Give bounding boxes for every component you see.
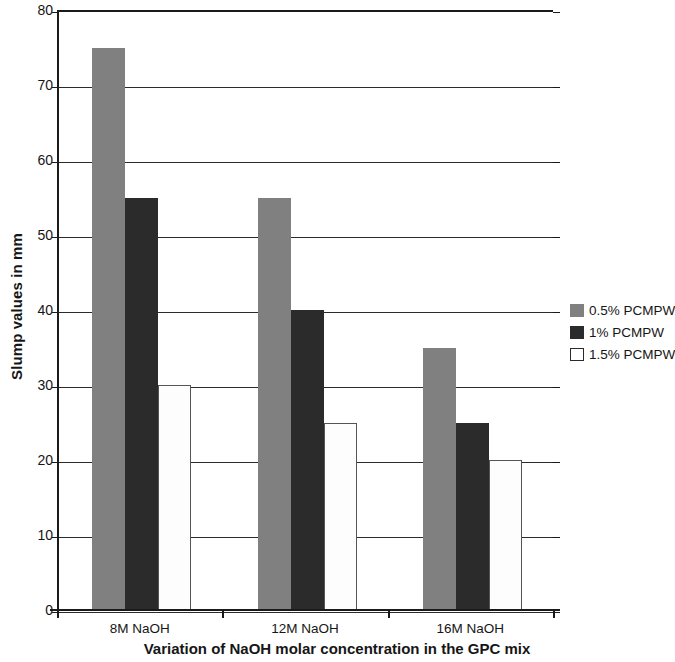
y-axis-tick-mark	[553, 87, 560, 88]
x-axis-tick-mark	[388, 609, 390, 618]
y-axis-tick-label: 70	[20, 77, 53, 93]
x-axis-tick-label: 8M NaOH	[110, 621, 170, 636]
gridline	[59, 162, 553, 163]
x-axis-title: Variation of NaOH molar concentration in…	[0, 640, 674, 657]
y-axis-tick-mark	[553, 462, 560, 463]
legend-item-label: 0.5% PCMPW	[589, 303, 675, 318]
bar	[125, 198, 158, 611]
bar	[258, 198, 291, 611]
bar	[423, 348, 456, 611]
legend-item: 1.5% PCMPW	[570, 344, 674, 365]
bar	[158, 385, 191, 610]
y-axis-tick-label: 30	[20, 377, 53, 393]
y-axis-tick-label: 0	[20, 602, 53, 618]
legend-item-label: 1% PCMPW	[589, 325, 664, 340]
plot-area	[57, 10, 553, 610]
bar	[291, 310, 324, 610]
bar	[489, 460, 522, 610]
legend-swatch-icon	[570, 348, 584, 361]
x-axis-tick-mark	[553, 609, 555, 618]
y-axis-tick-mark	[52, 312, 59, 313]
x-axis-tick-label: 12M NaOH	[271, 621, 339, 636]
y-axis-tick-label: 60	[20, 152, 53, 168]
y-axis-tick-label: 40	[20, 302, 53, 318]
bar	[456, 423, 489, 611]
y-axis-tick-label: 50	[20, 227, 53, 243]
y-axis-tick-label: 20	[20, 452, 53, 468]
y-axis-tick-mark	[52, 87, 59, 88]
y-axis-tick-mark	[553, 312, 560, 313]
y-axis-tick-mark	[553, 537, 560, 538]
y-axis-tick-label: 10	[20, 527, 53, 543]
y-axis-tick-mark	[52, 387, 59, 388]
x-axis-tick-mark	[222, 609, 224, 618]
chart-legend: 0.5% PCMPW 1% PCMPW 1.5% PCMPW	[570, 300, 674, 366]
y-axis-tick-mark	[553, 12, 560, 13]
y-axis-tick-mark	[553, 237, 560, 238]
legend-swatch-icon	[570, 304, 584, 317]
x-axis-tick-mark	[57, 609, 59, 618]
y-axis-tick-mark	[52, 537, 59, 538]
y-axis-tick-labels: 80706050403020100	[20, 0, 53, 620]
bar	[92, 48, 125, 611]
legend-item-label: 1.5% PCMPW	[589, 347, 675, 362]
y-axis-tick-mark	[52, 237, 59, 238]
y-axis-tick-mark	[553, 387, 560, 388]
legend-item: 1% PCMPW	[570, 322, 674, 343]
legend-swatch-icon	[570, 326, 584, 339]
x-axis-tick-label: 16M NaOH	[437, 621, 505, 636]
legend-item: 0.5% PCMPW	[570, 300, 674, 321]
gridline	[59, 612, 553, 613]
gridline	[59, 87, 553, 88]
y-axis-tick-mark	[553, 162, 560, 163]
y-axis-tick-mark	[52, 162, 59, 163]
bar	[324, 423, 357, 611]
y-axis-tick-label: 80	[20, 2, 53, 18]
x-axis-line	[50, 609, 560, 611]
y-axis-tick-mark	[52, 12, 59, 13]
y-axis-tick-mark	[52, 462, 59, 463]
